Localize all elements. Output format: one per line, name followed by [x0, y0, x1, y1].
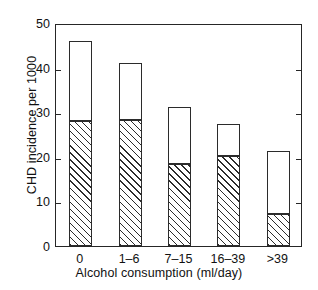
bar-segment-hatched — [217, 156, 240, 246]
bar-segment-open — [119, 63, 142, 120]
bar-column — [217, 124, 240, 246]
y-tick-mark-right — [296, 70, 301, 71]
bar-column — [168, 107, 191, 246]
y-tick-label: 30 — [4, 106, 50, 120]
bar-segment-hatched — [267, 214, 290, 246]
bar-segment-hatched — [168, 164, 191, 247]
x-tick-label: 0 — [76, 252, 83, 266]
plot-area — [55, 24, 302, 247]
bar-column — [119, 63, 142, 246]
bar-series — [56, 25, 301, 246]
bar-segment-open — [217, 124, 240, 156]
y-tick-mark-left — [56, 203, 61, 204]
bar-segment-hatched — [119, 120, 142, 246]
bar-column — [267, 151, 290, 246]
y-tick-label: 40 — [4, 62, 50, 76]
bar-segment-open — [267, 151, 290, 215]
y-tick-mark-left — [56, 159, 61, 160]
bar-column — [69, 41, 92, 246]
x-tick-label: 16–39 — [211, 252, 246, 266]
x-tick-label: 1–6 — [119, 252, 140, 266]
bar-segment-open — [168, 107, 191, 164]
y-tick-label: 50 — [4, 17, 50, 31]
chart-figure: CHD incidence per 1000 01020304050 01–67… — [0, 0, 318, 290]
bar-segment-open — [69, 41, 92, 121]
bar-segment-hatched — [69, 121, 92, 246]
y-tick-label: 10 — [4, 195, 50, 209]
y-tick-mark-right — [296, 114, 301, 115]
x-tick-label: 7–15 — [165, 252, 193, 266]
y-tick-mark-left — [56, 114, 61, 115]
y-tick-label: 20 — [4, 151, 50, 165]
y-tick-mark-right — [296, 159, 301, 160]
y-tick-mark-right — [296, 203, 301, 204]
y-tick-mark-left — [56, 70, 61, 71]
y-axis-ticks: 01020304050 — [0, 24, 50, 247]
x-axis-title: Alcohol consumption (ml/day) — [0, 266, 318, 280]
x-tick-label: >39 — [267, 252, 288, 266]
y-tick-label: 0 — [4, 240, 50, 254]
